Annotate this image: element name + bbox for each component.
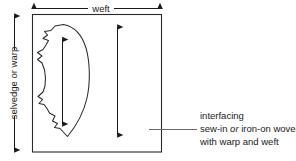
weft-label: weft: [91, 3, 110, 14]
callout-line-two: sew-in or iron-on woven: [200, 123, 296, 134]
callout-line-two-suffix: iron-on woven: [239, 123, 296, 134]
selvedge-or-warp-label: selvedge or warp: [8, 47, 19, 119]
pattern-piece-outline: [38, 25, 90, 137]
callout-heading: interfacing: [200, 110, 244, 121]
callout-line-three: with warp and weft: [199, 136, 279, 147]
diagram-page: weft selvedge or warp interfacing sew-in…: [0, 0, 296, 161]
callout-line-two-prefix: sew-in: [200, 123, 230, 134]
interfacing-grain-diagram: weft selvedge or warp interfacing sew-in…: [0, 0, 296, 161]
